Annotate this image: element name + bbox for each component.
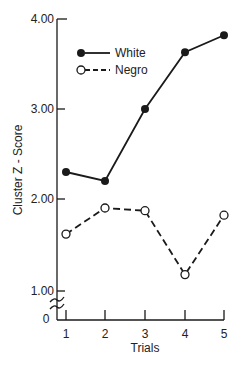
x-tick-label: 4 bbox=[182, 327, 189, 341]
x-tick-label: 1 bbox=[63, 327, 70, 341]
data-point-open bbox=[141, 207, 149, 215]
data-point-filled bbox=[141, 105, 149, 113]
data-point-open bbox=[62, 230, 70, 238]
x-ticks bbox=[66, 310, 224, 320]
y-tick-label: 3.00 bbox=[31, 102, 55, 116]
data-point-filled bbox=[181, 48, 189, 56]
data-point-open bbox=[181, 271, 189, 279]
cutoff-caption-text bbox=[0, 356, 243, 365]
legend-filled-circle-icon bbox=[77, 49, 85, 57]
x-tick-label: 5 bbox=[221, 327, 228, 341]
legend: White Negro bbox=[77, 46, 148, 77]
x-axis-title: Trials bbox=[131, 341, 160, 355]
y-ticks bbox=[57, 19, 67, 291]
data-point-open bbox=[220, 211, 228, 219]
y-tick-label: 4.00 bbox=[31, 12, 55, 26]
legend-open-circle-icon bbox=[77, 66, 85, 74]
data-point-filled bbox=[62, 168, 70, 176]
data-point-filled bbox=[101, 177, 109, 185]
y-axis-title: Cluster Z - Score bbox=[11, 124, 25, 215]
legend-label-white: White bbox=[115, 46, 146, 60]
x-tick-label: 3 bbox=[142, 327, 149, 341]
data-point-filled bbox=[220, 31, 228, 39]
y-tick-label: 2.00 bbox=[31, 192, 55, 206]
series-negro bbox=[62, 204, 228, 279]
legend-label-negro: Negro bbox=[115, 63, 148, 77]
data-point-open bbox=[101, 204, 109, 212]
x-tick-label: 2 bbox=[102, 327, 109, 341]
y-tick-label: 1.00 bbox=[31, 284, 55, 298]
line-chart: 4.00 3.00 2.00 1.00 0 1 2 3 4 5 Trials C… bbox=[0, 0, 243, 365]
y-origin-label: 0 bbox=[43, 312, 50, 326]
